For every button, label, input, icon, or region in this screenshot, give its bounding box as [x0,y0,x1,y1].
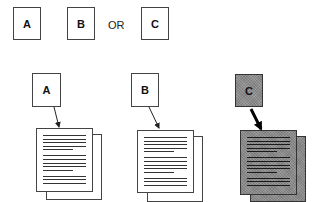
arrow-a [54,107,59,127]
arrow-c [251,109,261,129]
arrows-layer [0,0,322,202]
arrow-b [149,107,159,128]
